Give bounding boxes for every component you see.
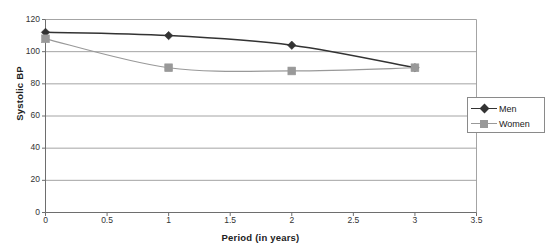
chart-container: 020406080100120 00.511.522.533.5 Systoli… [0, 0, 547, 252]
data-point-women-3 [411, 64, 419, 72]
x-tick-label-3.5: 3.5 [457, 216, 497, 225]
y-axis-title: Systolic BP [14, 49, 25, 139]
x-tick-label-2.5: 2.5 [333, 216, 373, 225]
x-tick-label-0: 0 [26, 216, 66, 225]
series-women [42, 35, 419, 75]
y-tick-label-0: 0 [14, 208, 40, 217]
x-tick-label-0.5: 0.5 [87, 216, 127, 225]
data-point-men-1 [164, 31, 172, 39]
data-point-women-0 [42, 35, 50, 43]
x-axis-tick-labels: 00.511.522.533.5 [0, 216, 547, 230]
x-tick-label-1: 1 [149, 216, 189, 225]
x-axis-title: Period (in years) [45, 232, 476, 243]
y-tick-label-120: 120 [14, 15, 40, 24]
x-tick-label-3: 3 [395, 216, 435, 225]
plot-area [0, 0, 547, 252]
legend-item-men[interactable]: Men [471, 101, 542, 116]
series-line-men [46, 32, 415, 67]
y-tick-label-40: 40 [14, 143, 40, 152]
chart-legend: Men Women [467, 97, 545, 133]
legend-item-women[interactable]: Women [471, 116, 542, 131]
series-men [41, 28, 419, 72]
data-point-women-1 [165, 64, 173, 72]
legend-marker-men [471, 103, 497, 115]
data-point-men-2 [288, 41, 296, 49]
data-point-women-2 [288, 67, 296, 75]
legend-label-women: Women [497, 119, 530, 129]
legend-marker-women [471, 118, 497, 130]
y-tick-label-20: 20 [14, 175, 40, 184]
x-tick-label-2: 2 [272, 216, 312, 225]
legend-label-men: Men [497, 104, 517, 114]
x-tick-label-1.5: 1.5 [210, 216, 250, 225]
series-line-women [46, 39, 415, 72]
